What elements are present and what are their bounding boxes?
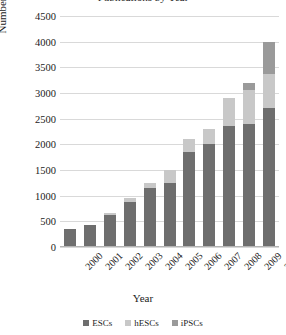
y-axis-tick-label: 2000 [0,139,56,150]
bar-segment-escs [203,144,215,247]
bar-segment-hescs [223,98,235,126]
chart-legend: ESCshESCsiPSCs [0,318,286,328]
bar-segment-escs [164,183,176,247]
bar-series-group [60,16,279,247]
y-axis-tick-label: 3000 [0,88,56,99]
legend-label: hESCs [134,318,159,328]
bar[interactable] [124,198,136,247]
bar-segment-escs [64,229,76,247]
chart-title: Publications by Year [0,0,286,3]
bar-segment-escs [243,124,255,247]
x-axis-tick-label: 2003 [143,250,165,272]
bar-segment-hescs [203,129,215,144]
x-axis-tick-label: 2009 [262,250,284,272]
bar[interactable] [263,42,275,247]
bar-segment-hescs [243,90,255,123]
bar[interactable] [223,98,235,247]
bar[interactable] [164,170,176,247]
x-axis-tick-label: 2000 [83,250,105,272]
bar-segment-escs [183,152,195,247]
x-axis-tick-label: 2007 [222,250,244,272]
legend-item[interactable]: ESCs [83,318,112,328]
stacked-bar-chart: Publications by Year Number of Publicati… [0,0,286,335]
bar-segment-hescs [183,139,195,152]
bar-segment-ipscs [263,42,275,74]
y-axis-tick-label: 0 [0,242,56,253]
x-axis-tick-label: 2002 [123,250,145,272]
bar[interactable] [203,129,215,247]
bar[interactable] [84,225,96,247]
bar-segment-escs [263,108,275,247]
y-axis-tick-label: 500 [0,216,56,227]
gridline [60,247,279,248]
x-axis-tick-label: 2006 [202,250,224,272]
bar-segment-ipscs [243,83,255,91]
x-axis-tick-label: 2008 [242,250,264,272]
legend-swatch-ipscs [172,320,178,326]
plot-area [60,16,279,247]
bar[interactable] [64,229,76,247]
x-axis-title: Year [0,292,286,304]
legend-label: ESCs [92,318,112,328]
bar-segment-escs [223,126,235,247]
legend-item[interactable]: iPSCs [172,318,203,328]
x-axis-line [60,246,279,247]
bar-segment-hescs [164,170,176,183]
legend-item[interactable]: hESCs [125,318,159,328]
x-axis-tick-label: 2005 [182,250,204,272]
bar-segment-escs [144,188,156,247]
x-axis-tick-label: 2004 [162,250,184,272]
bar[interactable] [104,213,116,247]
y-axis-tick-label: 4500 [0,11,56,22]
x-axis-tick-label: 2010 [282,250,286,272]
x-axis-tick-labels: 2000200120022003200420052006200720082009… [60,250,279,290]
y-axis-tick-label: 3500 [0,62,56,73]
bar[interactable] [183,139,195,247]
bar[interactable] [144,183,156,247]
bar-segment-hescs [263,74,275,109]
y-axis-tick-label: 1000 [0,190,56,201]
legend-swatch-hescs [125,320,131,326]
y-axis-tick-label: 4000 [0,36,56,47]
bar-segment-escs [124,202,136,247]
legend-label: iPSCs [181,318,203,328]
x-axis-tick-label: 2001 [103,250,125,272]
bar[interactable] [243,83,255,247]
bar-segment-escs [104,215,116,247]
y-axis-tick-label: 2500 [0,113,56,124]
bar-segment-escs [84,225,96,247]
legend-swatch-escs [83,320,89,326]
y-axis-tick-label: 1500 [0,165,56,176]
